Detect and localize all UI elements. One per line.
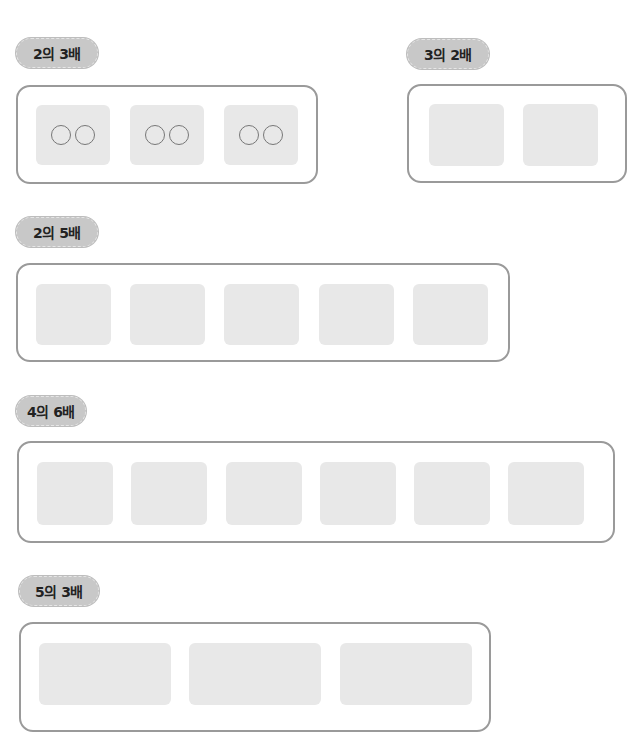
problem-label-text: 2의 5배 <box>33 222 81 242</box>
answer-cell[interactable] <box>39 643 171 705</box>
problem-label-2x5: 2의 5배 <box>16 217 98 247</box>
circle-icon <box>263 125 283 145</box>
circle-icon <box>145 125 165 145</box>
answer-cell[interactable] <box>36 284 111 345</box>
answer-cell[interactable] <box>130 284 205 345</box>
problem-label-text: 4의 6배 <box>27 401 75 421</box>
answer-cell[interactable] <box>131 462 207 525</box>
problem-label-text: 3의 2배 <box>424 44 472 64</box>
circle-icon <box>75 125 95 145</box>
answer-cell[interactable] <box>224 105 298 165</box>
answer-cell[interactable] <box>414 462 490 525</box>
answer-cell[interactable] <box>429 104 504 166</box>
problem-label-4x6: 4의 6배 <box>16 396 86 426</box>
problem-label-3x2: 3의 2배 <box>407 39 489 69</box>
answer-cell[interactable] <box>508 462 584 525</box>
problem-label-text: 2의 3배 <box>33 43 81 63</box>
group-box-4x6 <box>17 441 615 543</box>
circle-icon <box>169 125 189 145</box>
problem-label-text: 5의 3배 <box>35 581 83 601</box>
answer-cell[interactable] <box>340 643 472 705</box>
answer-cell[interactable] <box>189 643 321 705</box>
answer-cell[interactable] <box>320 462 396 525</box>
answer-cell[interactable] <box>130 105 204 165</box>
group-box-2x3 <box>16 85 318 184</box>
group-box-5x3 <box>19 622 491 732</box>
circle-icon <box>239 125 259 145</box>
answer-cell[interactable] <box>523 104 598 166</box>
answer-cell[interactable] <box>226 462 302 525</box>
answer-cell[interactable] <box>37 462 113 525</box>
answer-cell[interactable] <box>319 284 394 345</box>
group-box-2x5 <box>16 263 510 362</box>
group-box-3x2 <box>407 84 627 183</box>
answer-cell[interactable] <box>413 284 488 345</box>
problem-label-2x3: 2의 3배 <box>16 38 98 68</box>
problem-label-5x3: 5의 3배 <box>19 576 99 606</box>
answer-cell[interactable] <box>36 105 110 165</box>
answer-cell[interactable] <box>224 284 299 345</box>
circle-icon <box>51 125 71 145</box>
